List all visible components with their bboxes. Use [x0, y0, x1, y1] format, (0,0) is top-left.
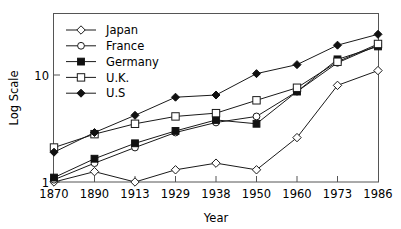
- data-point-1950: [253, 120, 260, 127]
- legend-label: Germany: [106, 55, 159, 69]
- y-axis-title: Log Scale: [7, 70, 21, 125]
- x-tick-label-1950: 1950: [242, 187, 271, 201]
- x-axis-title: Year: [203, 211, 229, 225]
- legend-label: Japan: [105, 23, 138, 37]
- data-point-1950: [253, 97, 260, 104]
- x-tick-label-1986: 1986: [363, 187, 392, 201]
- legend-marker: [78, 58, 85, 65]
- x-tick-label-1870: 1870: [39, 187, 68, 201]
- data-point-1929: [172, 113, 179, 120]
- x-axis-tick-labels: 187018901913192919381950196019731986: [39, 187, 392, 201]
- legend-label: U.K.: [106, 71, 129, 85]
- log-scale-line-chart: 110 187018901913192919381950196019731986…: [0, 0, 401, 229]
- data-point-1870: [51, 174, 58, 181]
- legend-marker: [78, 42, 85, 49]
- x-tick-label-1929: 1929: [161, 187, 190, 201]
- data-point-1913: [131, 120, 138, 127]
- x-tick-label-1973: 1973: [323, 187, 352, 201]
- x-tick-label-1938: 1938: [201, 187, 230, 201]
- data-point-1929: [172, 128, 179, 135]
- data-point-1973: [334, 58, 341, 65]
- data-point-1938: [213, 117, 220, 124]
- data-point-1913: [132, 140, 139, 147]
- x-tick-label-1890: 1890: [80, 187, 109, 201]
- legend-label: U.S: [106, 86, 125, 100]
- legend-marker: [77, 74, 84, 81]
- legend-label: France: [106, 39, 144, 53]
- x-tick-label-1913: 1913: [120, 187, 149, 201]
- data-point-1950: [253, 113, 260, 120]
- data-point-1960: [293, 84, 300, 91]
- data-point-1986: [374, 40, 381, 47]
- data-point-1890: [91, 155, 98, 162]
- data-point-1938: [212, 109, 219, 116]
- y-tick-label-10: 10: [34, 69, 49, 83]
- chart-container: 110 187018901913192919381950196019731986…: [0, 0, 401, 229]
- x-tick-label-1960: 1960: [282, 187, 311, 201]
